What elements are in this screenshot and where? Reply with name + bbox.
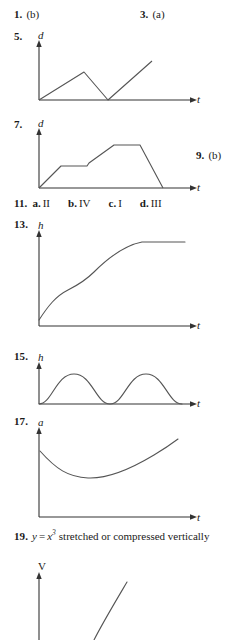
figure-7-x-arrowhead — [190, 185, 197, 190]
answer-19-text: stretched or compressed vertically — [59, 530, 210, 542]
answer-value-3: (a) — [152, 8, 164, 20]
figure-17-svg — [30, 425, 210, 525]
answer-11-value-b: IV — [79, 197, 91, 209]
answer-11-part-b: b. IV — [68, 197, 90, 209]
answer-number-9: 9. — [196, 149, 204, 161]
answer-item-1: 1. (b) — [14, 8, 39, 20]
figure-7-xlabel: t — [197, 181, 200, 193]
figure-5-curve — [39, 61, 152, 100]
answer-11-value-d: III — [151, 197, 162, 209]
figure-5-svg — [30, 38, 210, 108]
answer-number-19: 19. — [14, 530, 28, 542]
figure-17-xlabel: t — [197, 511, 200, 523]
answer-19-equation: y=x3 — [32, 528, 56, 542]
figure-5 — [30, 38, 210, 108]
figure-15-xlabel: t — [197, 397, 200, 409]
figure-7-svg — [30, 126, 210, 196]
answer-11-label-a: a. — [32, 197, 40, 209]
answer-item-5: 5. — [14, 30, 22, 42]
answer-number-3: 3. — [140, 8, 148, 20]
answer-number-11: 11. — [14, 197, 27, 209]
figure-15-svg — [30, 360, 210, 412]
figure-15-x-arrowhead — [190, 401, 197, 406]
answer-number-5: 5. — [14, 30, 22, 42]
figure-13-curve — [39, 242, 185, 320]
figure-15-curve — [39, 374, 182, 404]
figure-17-curve — [40, 439, 178, 478]
figure-13-y-arrowhead — [36, 230, 41, 237]
figure-13 — [30, 228, 210, 334]
figure-5-y-arrowhead — [36, 40, 41, 47]
figure-5-x-arrowhead — [190, 97, 197, 102]
figure-21-curve — [94, 582, 127, 640]
answer-item-7: 7. — [14, 118, 22, 130]
figure-5-xlabel: t — [197, 93, 200, 105]
figure-17 — [30, 425, 210, 525]
answer-19-equals: = — [37, 530, 47, 542]
figure-15-y-arrowhead — [36, 362, 41, 369]
answer-item-17: 17. — [14, 415, 28, 427]
answer-11-value-c: I — [118, 197, 122, 209]
figure-13-svg — [30, 228, 210, 334]
answer-number-7: 7. — [14, 118, 22, 130]
figure-7-y-arrowhead — [36, 128, 41, 135]
answer-item-3: 3. (a) — [140, 8, 165, 20]
answer-item-9: 9. (b) — [196, 149, 221, 161]
answer-11-value-a: II — [43, 197, 50, 209]
figure-7 — [30, 126, 210, 196]
answer-11-part-c: c. I — [109, 197, 122, 209]
figure-17-x-arrowhead — [190, 514, 197, 519]
answer-11-label-d: d. — [140, 197, 149, 209]
figure-21-y-arrowhead — [36, 572, 41, 579]
answer-value-9: (b) — [208, 149, 221, 161]
answer-item-13: 13. — [14, 218, 28, 230]
answer-11-label-b: b. — [68, 197, 77, 209]
figure-21 — [30, 570, 210, 640]
answer-item-19: 19. y=x3 stretched or compressed vertica… — [14, 528, 209, 542]
answer-number-17: 17. — [14, 415, 28, 427]
answer-11-part-a: a. II — [32, 197, 50, 209]
answer-11-part-d: d. III — [140, 197, 162, 209]
answer-19-exponent: 3 — [52, 528, 56, 537]
answer-number-13: 13. — [14, 218, 28, 230]
figure-15 — [30, 360, 210, 412]
figure-13-xlabel: t — [197, 319, 200, 331]
figure-13-x-arrowhead — [190, 323, 197, 328]
figure-17-y-arrowhead — [36, 427, 41, 434]
answer-number-15: 15. — [14, 350, 28, 362]
figure-7-curve — [39, 145, 163, 188]
answer-value-1: (b) — [26, 8, 39, 20]
answer-item-11: 11. a. II b. IV c. I d. III — [14, 197, 162, 209]
answer-11-label-c: c. — [109, 197, 117, 209]
answer-number-1: 1. — [14, 8, 22, 20]
figure-21-svg — [30, 570, 210, 640]
answer-item-15: 15. — [14, 350, 28, 362]
